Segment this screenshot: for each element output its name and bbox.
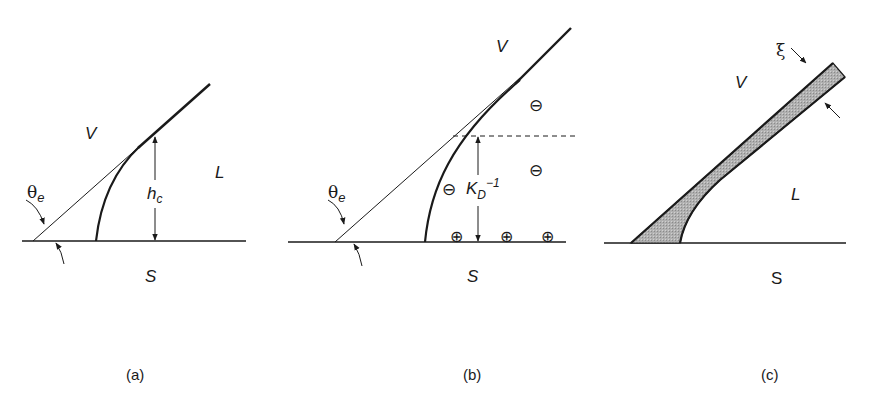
interface-line [515, 28, 571, 84]
positive-charge: ⊕ [541, 228, 554, 245]
thickness-arrow-inner [825, 103, 840, 118]
caption-b: (b) [463, 366, 481, 383]
panel-b: V S θe KD−1 ⊖ ⊖ ⊖ ⊕ ⊕ ⊕ (b) [288, 28, 576, 383]
negative-charge: ⊖ [529, 161, 543, 180]
label-theta: θe [328, 182, 345, 205]
caption-a: (a) [126, 366, 144, 383]
positive-charge: ⊕ [450, 228, 463, 245]
interface-line [138, 84, 210, 148]
label-solid: S [771, 269, 782, 288]
thickness-arrow-outer [791, 48, 806, 63]
label-thickness: ξ [776, 40, 785, 60]
label-solid: S [145, 267, 157, 286]
positive-charge: ⊕ [500, 228, 513, 245]
film-outer-edge [631, 63, 833, 243]
tangent-line [33, 146, 140, 241]
label-vapor: V [735, 73, 748, 92]
film-inner-edge [680, 77, 845, 243]
angle-arrow-bottom [56, 243, 64, 264]
label-liquid: L [791, 185, 800, 204]
panel-a: V L S θe hc (a) [22, 84, 246, 383]
tangent-line [335, 78, 520, 242]
negative-charge: ⊖ [529, 96, 543, 115]
negative-charge: ⊖ [442, 180, 456, 199]
label-debye-length: KD−1 [466, 176, 500, 202]
angle-arrow-bottom [354, 244, 362, 266]
label-vapor: V [496, 37, 509, 56]
meniscus-curve [425, 80, 520, 242]
label-solid: S [467, 267, 479, 286]
meniscus-curve [96, 146, 140, 241]
contact-line-diagram: V L S θe hc (a) V S θe KD−1 ⊖ ⊖ ⊖ ⊕ ⊕ ⊕ … [0, 0, 883, 400]
panel-c: ξ V L S (c) [604, 40, 846, 383]
label-liquid: L [215, 163, 224, 182]
label-height: hc [147, 184, 162, 206]
label-theta: θe [27, 182, 44, 205]
caption-c: (c) [761, 366, 779, 383]
label-vapor: V [85, 124, 98, 143]
